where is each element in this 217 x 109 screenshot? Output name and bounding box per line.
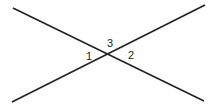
- angle-label-1: 1: [86, 50, 92, 62]
- angle-label-2: 2: [128, 49, 134, 61]
- angle-label-3: 3: [107, 37, 113, 49]
- intersecting-lines-diagram: 1 3 2: [0, 0, 217, 109]
